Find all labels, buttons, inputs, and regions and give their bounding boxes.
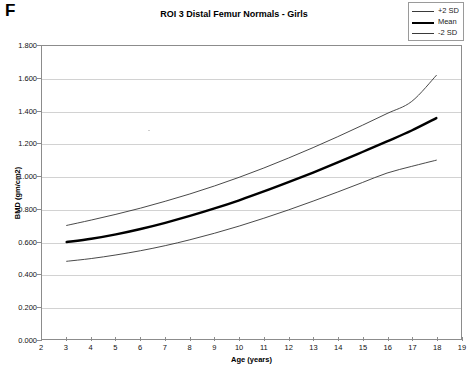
- x-tick-label: 17: [408, 343, 416, 352]
- y-tick-label: 0.200: [18, 303, 37, 312]
- y-tick-label: 1.800: [18, 41, 37, 50]
- x-tick-label: 2: [39, 343, 43, 352]
- x-tick-label: 7: [163, 343, 167, 352]
- series-line-2-sd: [67, 75, 437, 225]
- y-tick-label: 1.200: [18, 139, 37, 148]
- series-line-mean: [67, 118, 437, 242]
- y-tick-label: 0.000: [18, 336, 37, 345]
- y-tick-label: 0.600: [18, 237, 37, 246]
- x-tick-label: 9: [212, 343, 216, 352]
- legend-item: -2 SD: [412, 27, 459, 38]
- x-tick-mark: [437, 337, 438, 341]
- plot-wrapper: [41, 45, 462, 340]
- x-tick-label: 12: [284, 343, 292, 352]
- x-tick-label: 16: [384, 343, 392, 352]
- x-tick-label: 5: [113, 343, 117, 352]
- legend-item-label: Mean: [438, 17, 457, 26]
- legend-item-label: -2 SD: [438, 28, 457, 37]
- series-line-2-sd: [67, 160, 437, 261]
- chart-legend: +2 SDMean-2 SD: [408, 2, 464, 41]
- scan-artifact-speck: [148, 130, 150, 131]
- x-tick-label: 6: [138, 343, 142, 352]
- x-tick-mark: [41, 337, 42, 341]
- x-tick-mark: [338, 337, 339, 341]
- x-tick-label: 13: [309, 343, 317, 352]
- legend-item-label: +2 SD: [438, 6, 459, 15]
- x-tick-mark: [412, 337, 413, 341]
- x-tick-label: 8: [187, 343, 191, 352]
- legend-item: +2 SD: [412, 5, 459, 16]
- x-tick-mark: [190, 337, 191, 341]
- x-tick-label: 18: [433, 343, 441, 352]
- x-tick-mark: [91, 337, 92, 341]
- x-tick-mark: [363, 337, 364, 341]
- x-tick-label: 3: [64, 343, 68, 352]
- x-tick-mark: [115, 337, 116, 341]
- curve-layer: [42, 46, 461, 340]
- x-tick-mark: [66, 337, 67, 341]
- x-tick-mark: [388, 337, 389, 341]
- x-tick-label: 19: [458, 343, 466, 352]
- chart-title: ROI 3 Distal Femur Normals - Girls: [0, 9, 468, 19]
- x-tick-mark: [289, 337, 290, 341]
- y-tick-label: 1.400: [18, 106, 37, 115]
- x-tick-label: 11: [260, 343, 268, 352]
- x-axis-title: Age (years): [41, 355, 462, 364]
- legend-item: Mean: [412, 16, 459, 27]
- y-tick-label: 1.000: [18, 172, 37, 181]
- x-tick-label: 15: [359, 343, 367, 352]
- plot-area: [41, 45, 462, 340]
- x-tick-mark: [313, 337, 314, 341]
- x-tick-mark: [239, 337, 240, 341]
- y-axis-ticks: 0.0000.2000.4000.6000.8001.0001.2001.400…: [0, 45, 37, 340]
- x-tick-mark: [140, 337, 141, 341]
- x-tick-label: 4: [88, 343, 92, 352]
- x-tick-mark: [214, 337, 215, 341]
- y-tick-label: 1.600: [18, 73, 37, 82]
- x-tick-label: 10: [235, 343, 243, 352]
- y-tick-label: 0.800: [18, 204, 37, 213]
- x-tick-label: 14: [334, 343, 342, 352]
- y-tick-label: 0.400: [18, 270, 37, 279]
- x-tick-mark: [462, 337, 463, 341]
- x-tick-mark: [264, 337, 265, 341]
- x-axis-ticks: 2345678910111213141516171819: [41, 341, 462, 355]
- x-tick-mark: [165, 337, 166, 341]
